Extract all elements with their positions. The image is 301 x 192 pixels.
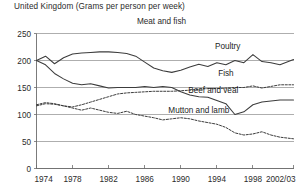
ytick-label: 250 xyxy=(17,30,31,39)
xtick-label: 2002/03 xyxy=(266,175,296,184)
line-chart: 050100150200250 197419781982198619901994… xyxy=(0,0,301,192)
series-label-poultry: Poultry xyxy=(215,42,241,51)
series-paths xyxy=(37,52,294,139)
ytick-label: 150 xyxy=(17,84,31,93)
series-label-mutton-and-lamb: Mutton and lamb xyxy=(168,106,229,115)
xtick-label: 1994 xyxy=(208,175,227,184)
xtick-label: 1974 xyxy=(35,175,54,184)
ytick-labels: 050100150200250 xyxy=(17,30,31,174)
series-line-mutton-and-lamb xyxy=(37,103,294,139)
chart-screenshot: United Kingdom (Grams per person per wee… xyxy=(0,0,301,192)
series-label-beef-and-veal: Beef and veal xyxy=(188,86,238,95)
xtick-label: 1998 xyxy=(244,175,263,184)
series-line-fish xyxy=(37,85,294,107)
ytick-label: 200 xyxy=(17,57,31,66)
xtick-label: 1990 xyxy=(172,175,191,184)
ytick-label: 50 xyxy=(22,138,32,147)
series-line-poultry xyxy=(37,52,294,73)
series-labels: PoultryFishBeef and vealMutton and lamb xyxy=(168,42,241,116)
xtick-label: 1982 xyxy=(100,175,119,184)
series-label-fish: Fish xyxy=(218,69,234,78)
ytick-label: 100 xyxy=(17,111,31,120)
ytick-label: 0 xyxy=(26,165,31,174)
xtick-label: 1986 xyxy=(136,175,155,184)
xtick-labels: 19741978198219861990199419982002/03 xyxy=(35,175,296,184)
xtick-label: 1978 xyxy=(63,175,82,184)
